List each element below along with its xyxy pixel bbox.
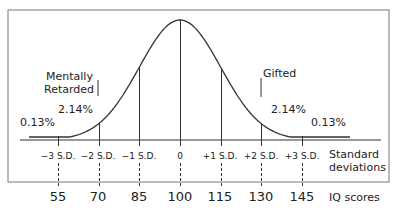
iq-label: 145 [290,189,315,204]
sd-axis-title-line2: deviations [329,161,386,174]
pct-right-013: 0.13% [311,116,346,129]
sd-label: −1 S.D. [122,151,157,161]
sd-axis-title-line1: Standard [329,148,379,161]
iq-axis-title: IQ scores [329,191,380,204]
annotation-mentally: Mentally [46,70,93,83]
sd-label: −3 S.D. [41,151,76,161]
pct-left-214: 2.14% [58,103,93,116]
iq-distribution-chart: −3 S.D. −2 S.D. −1 S.D. 0 +1 S.D. +2 S.D… [0,0,398,218]
iq-label: 55 [50,189,67,204]
iq-label: 115 [208,189,233,204]
iq-label: 70 [90,189,107,204]
pct-right-214: 2.14% [271,103,306,116]
sd-label: +2 S.D. [244,151,279,161]
iq-label: 100 [168,189,193,204]
sd-label: +3 S.D. [285,151,320,161]
sd-label: +1 S.D. [203,151,238,161]
iq-labels: 55 70 85 100 115 130 145 [50,189,315,204]
sd-labels: −3 S.D. −2 S.D. −1 S.D. 0 +1 S.D. +2 S.D… [41,151,320,161]
pct-left-013: 0.13% [20,116,55,129]
annotation-retarded: Retarded [44,83,94,96]
sd-label: 0 [177,151,183,161]
sd-label: −2 S.D. [81,151,116,161]
sd-dashed-ticks [59,163,303,186]
annotation-gifted: Gifted [263,67,296,80]
iq-label: 130 [249,189,274,204]
iq-label: 85 [131,189,148,204]
